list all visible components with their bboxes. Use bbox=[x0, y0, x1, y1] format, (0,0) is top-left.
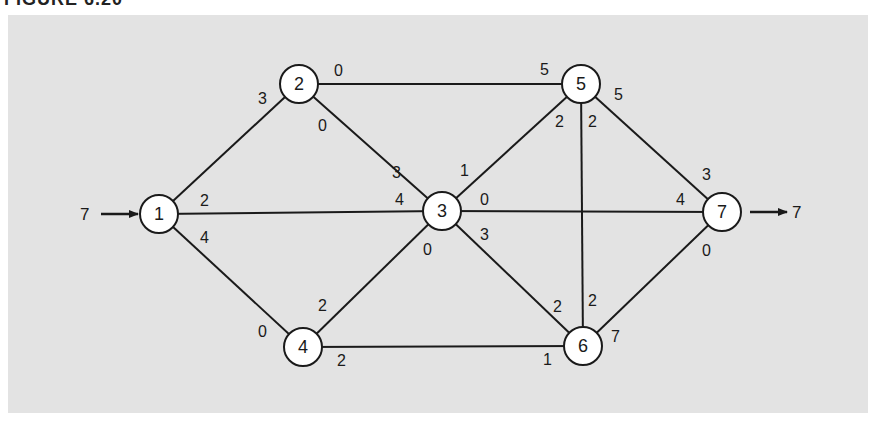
cap-3-5-at-3: 1 bbox=[460, 162, 469, 179]
cap-1-3-at-3: 4 bbox=[395, 191, 404, 208]
node-3-label: 3 bbox=[437, 201, 447, 221]
node-5: 5 bbox=[562, 65, 600, 103]
edge-3-5 bbox=[442, 84, 581, 211]
node-7-label: 7 bbox=[717, 202, 727, 222]
cap-5-6-at-5: 2 bbox=[588, 113, 597, 130]
cap-6-7-at-7: 0 bbox=[702, 242, 711, 259]
edge-4-3 bbox=[303, 211, 442, 347]
edge-1-3 bbox=[159, 211, 442, 214]
cap-2-3-at-3: 3 bbox=[392, 164, 401, 181]
node-6-label: 6 bbox=[578, 336, 588, 356]
node-5-label: 5 bbox=[576, 74, 586, 94]
edge-3-6 bbox=[442, 211, 583, 346]
node-4-label: 4 bbox=[298, 337, 308, 357]
cap-1-3-at-1: 2 bbox=[200, 192, 209, 209]
edge-1-4 bbox=[159, 214, 303, 347]
node-7: 7 bbox=[703, 193, 741, 231]
edge-2-3 bbox=[299, 84, 442, 211]
cap-3-5-at-5: 2 bbox=[555, 113, 564, 130]
cap-2-5-at-5: 5 bbox=[540, 61, 549, 78]
cap-4-3-at-3: 0 bbox=[423, 241, 432, 258]
node-3: 3 bbox=[423, 192, 461, 230]
node-2: 2 bbox=[280, 65, 318, 103]
edge-4-6 bbox=[303, 346, 583, 347]
cap-3-7-at-7: 4 bbox=[676, 191, 685, 208]
cap-5-6-at-6: 2 bbox=[588, 292, 597, 309]
cap-3-6-at-6: 2 bbox=[553, 298, 562, 315]
node-4: 4 bbox=[284, 328, 322, 366]
cap-4-6-at-6: 1 bbox=[543, 351, 552, 368]
edge-5-7 bbox=[581, 84, 722, 212]
node-1-label: 1 bbox=[154, 204, 164, 224]
node-1: 1 bbox=[140, 195, 178, 233]
cap-2-5-at-2: 0 bbox=[334, 62, 343, 79]
edge-6-7 bbox=[583, 212, 722, 346]
cap-1-2-at-1: 3 bbox=[258, 90, 267, 107]
node-2-label: 2 bbox=[294, 74, 304, 94]
node-6: 6 bbox=[564, 327, 602, 365]
sink-flow-label: 7 bbox=[792, 203, 801, 222]
cap-5-7-at-5: 5 bbox=[614, 86, 623, 103]
cap-1-4-at-1: 4 bbox=[200, 229, 209, 246]
cap-3-6-at-3: 3 bbox=[480, 226, 489, 243]
cap-5-7-at-7: 3 bbox=[702, 166, 711, 183]
cap-3-7-at-3: 0 bbox=[480, 191, 489, 208]
source-flow-label: 7 bbox=[80, 205, 89, 224]
cap-6-7-at-6: 7 bbox=[611, 328, 620, 345]
cap-1-4-at-4: 0 bbox=[258, 323, 267, 340]
cap-4-3-at-4: 2 bbox=[318, 297, 327, 314]
edge-5-6 bbox=[581, 84, 583, 346]
cap-4-6-at-4: 2 bbox=[337, 352, 346, 369]
network-diagram: 7 7 1 2 3 4 5 6 7 bbox=[0, 0, 878, 425]
edge-1-2 bbox=[159, 84, 299, 214]
nodes: 1 2 3 4 5 6 7 bbox=[140, 65, 741, 366]
cap-2-3-at-2: 0 bbox=[318, 117, 327, 134]
